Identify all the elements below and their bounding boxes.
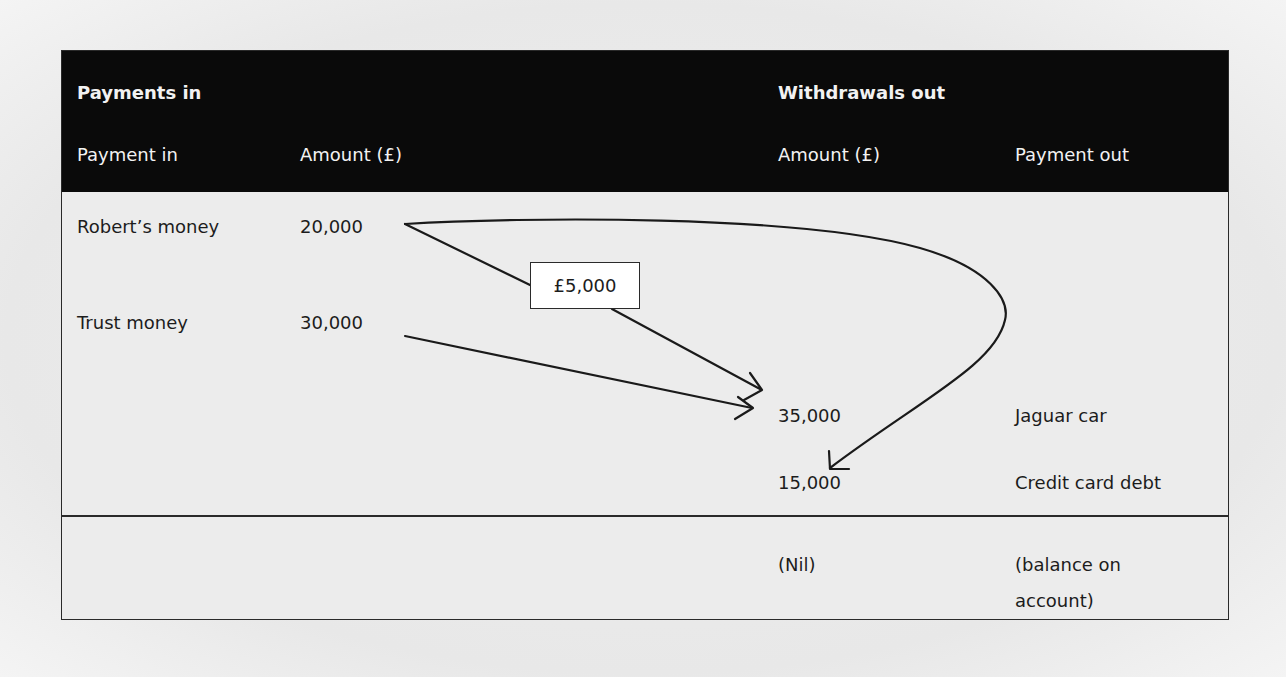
transfer-amount-text: £5,000 [554, 275, 617, 296]
flow-arrow-robert-to-credit-card [405, 220, 1006, 468]
flow-arrows [0, 0, 1286, 677]
arrowhead-icon [744, 373, 762, 400]
transfer-amount-label: £5,000 [530, 262, 640, 309]
flow-arrow-robert-to-jaguar [405, 224, 530, 285]
flow-arrow-trust-to-jaguar [405, 336, 752, 408]
